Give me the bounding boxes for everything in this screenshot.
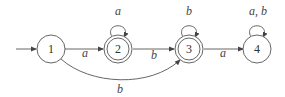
edge-label-1-3: b [117, 82, 123, 96]
edge-label-2-3: b [151, 48, 157, 62]
edge-label-4-4: a, b [249, 4, 267, 18]
state-1: 1 [37, 35, 65, 63]
state-label-4: 4 [254, 42, 260, 56]
state-label-1: 1 [48, 42, 54, 56]
state-label-2: 2 [115, 42, 121, 56]
edge-label-3-4: a [220, 46, 226, 60]
state-label-3: 3 [186, 42, 192, 56]
edge-label-2-2: a [115, 4, 121, 18]
edge-label-1-2: a [82, 46, 88, 60]
state-2: 2 [104, 35, 132, 63]
edge-label-3-3: b [186, 4, 192, 18]
state-3: 3 [175, 35, 203, 63]
state-4: 4 [243, 35, 271, 63]
automaton-diagram: a a b b b a a, b 1 2 3 4 [0, 0, 285, 97]
